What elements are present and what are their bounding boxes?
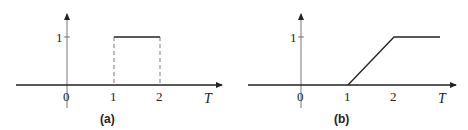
x-tick-label-1: 1 bbox=[110, 89, 117, 104]
x-tick-label-0: 0 bbox=[297, 89, 304, 104]
figure: 1 0 1 2 T (a) 1 0 1 2 T (b) bbox=[0, 0, 468, 130]
caption-a: (a) bbox=[100, 112, 115, 126]
x-tick-label-2: 2 bbox=[390, 89, 397, 104]
panel-a: 1 0 1 2 T (a) bbox=[16, 14, 222, 126]
x-tick-label-2: 2 bbox=[156, 89, 163, 104]
y-tick-label-1: 1 bbox=[56, 30, 63, 45]
x-axis-label: T bbox=[204, 91, 213, 106]
ramp-curve bbox=[348, 37, 440, 85]
x-tick-label-0: 0 bbox=[63, 89, 70, 104]
x-axis-label: T bbox=[438, 91, 447, 106]
panel-b: 1 0 1 2 T (b) bbox=[248, 14, 456, 126]
x-tick-label-1: 1 bbox=[344, 89, 351, 104]
y-tick-label-1: 1 bbox=[290, 30, 297, 45]
caption-b: (b) bbox=[334, 112, 349, 126]
